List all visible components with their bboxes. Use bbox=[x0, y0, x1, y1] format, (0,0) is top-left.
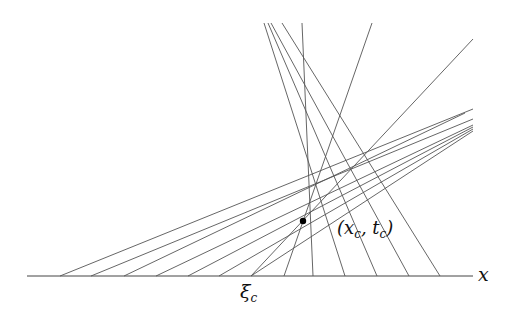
shock-point-label: (xc, tc) bbox=[337, 217, 393, 241]
label-part: ) bbox=[386, 217, 393, 238]
xi-symbol: ξ bbox=[240, 280, 250, 302]
characteristic-line bbox=[91, 119, 473, 276]
characteristic-line bbox=[124, 113, 465, 276]
x-axis-label: x bbox=[478, 263, 489, 285]
characteristic-line bbox=[188, 127, 473, 276]
label-sub: c bbox=[354, 227, 361, 241]
characteristics-diagram: x ξc (xc, tc) bbox=[0, 0, 527, 326]
label-part: , t bbox=[361, 217, 380, 238]
label-part: (x bbox=[337, 217, 354, 238]
characteristic-lines bbox=[60, 23, 473, 276]
diagram-svg bbox=[0, 0, 527, 326]
characteristic-line bbox=[251, 131, 473, 276]
characteristic-line bbox=[219, 129, 473, 276]
xi-c-label: ξc bbox=[240, 280, 257, 305]
characteristic-line bbox=[302, 23, 313, 276]
characteristic-line bbox=[60, 109, 473, 276]
xi-subscript: c bbox=[250, 291, 257, 305]
characteristic-line bbox=[264, 23, 345, 276]
shock-point-marker bbox=[300, 218, 306, 224]
